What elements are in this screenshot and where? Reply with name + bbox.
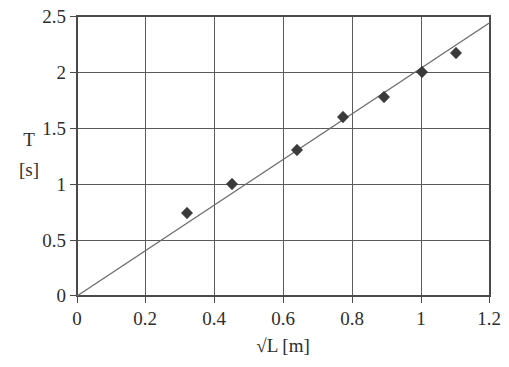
- y-axis-title-unit: [s]: [19, 159, 39, 180]
- y-tick-label-1.5: 1.5: [42, 118, 66, 139]
- x-axis-title-label: √L [m]: [256, 335, 310, 356]
- x-tick-label-0.6: 0.6: [271, 308, 295, 329]
- chart-canvas: 2.5 2 1.5 1 0.5 0 0 0.2 0.4 0.6 0.8 1 1.…: [0, 0, 509, 367]
- x-tick-label-1: 1: [416, 308, 426, 329]
- y-axis-title-symbol: T: [23, 129, 35, 150]
- y-tick-label-0: 0: [57, 285, 67, 306]
- x-tick-label-0.2: 0.2: [133, 308, 157, 329]
- x-axis-title: √L [m]: [256, 335, 310, 356]
- chart-page: 2.5 2 1.5 1 0.5 0 0 0.2 0.4 0.6 0.8 1 1.…: [0, 0, 509, 367]
- x-tick-label-0: 0: [72, 308, 82, 329]
- y-tick-label-2.5: 2.5: [42, 6, 66, 27]
- y-tick-label-2: 2: [57, 62, 67, 83]
- x-tick-label-1.2: 1.2: [477, 308, 501, 329]
- x-tick-label-0.8: 0.8: [340, 308, 364, 329]
- scatter-chart-figure: 2.5 2 1.5 1 0.5 0 0 0.2 0.4 0.6 0.8 1 1.…: [0, 0, 509, 367]
- y-tick-label-1: 1: [57, 174, 67, 195]
- x-tick-label-0.4: 0.4: [202, 308, 226, 329]
- y-tick-label-0.5: 0.5: [42, 230, 66, 251]
